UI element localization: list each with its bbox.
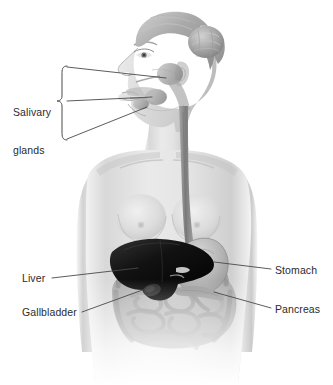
abdominal-organs [80,150,260,385]
label-salivary-glands-line1: Salivary [13,106,51,119]
leader-sublingual [67,107,147,139]
salivary-glands-brace [57,66,67,140]
label-salivary-glands: Salivary glands [13,81,51,181]
label-salivary-glands-line2: glands [13,144,51,157]
label-gallbladder: Gallbladder [22,306,77,319]
leader-parotid [67,67,166,78]
anatomy-figure-svg [0,0,333,385]
label-pancreas: Pancreas [275,303,320,316]
label-stomach: Stomach [275,264,317,277]
label-liver: Liver [22,272,45,285]
anatomy-illustration: Salivary glands Liver Gallbladder Stomac… [0,0,333,385]
